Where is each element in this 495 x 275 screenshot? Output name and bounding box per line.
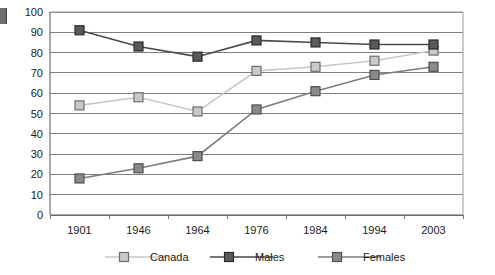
data-point-marker	[252, 36, 261, 45]
legend-marker	[120, 253, 129, 262]
data-point-marker	[193, 152, 202, 161]
data-point-marker	[252, 105, 261, 114]
y-axis-labels: 0102030405060708090100	[25, 6, 43, 221]
legend-marker	[333, 253, 342, 262]
x-tick-label: 1976	[244, 224, 268, 236]
x-tick-label: 1994	[362, 224, 386, 236]
y-tick-label: 70	[31, 67, 43, 79]
data-point-marker	[311, 38, 320, 47]
data-point-marker	[193, 52, 202, 61]
data-point-marker	[75, 174, 84, 183]
legend-label: Females	[363, 251, 406, 263]
y-tick-label: 100	[25, 6, 43, 18]
x-tick-label: 1901	[67, 224, 91, 236]
x-tick-label: 1946	[126, 224, 150, 236]
line-chart: 0102030405060708090100 19011946196419761…	[0, 0, 495, 275]
data-point-marker	[429, 40, 438, 49]
legend-item-females[interactable]: Females	[318, 251, 406, 263]
chart-container: 0102030405060708090100 19011946196419761…	[0, 0, 495, 275]
legend-item-males[interactable]: Males	[210, 251, 285, 263]
data-point-marker	[370, 40, 379, 49]
y-tick-label: 90	[31, 26, 43, 38]
data-point-marker	[75, 101, 84, 110]
legend-item-canada[interactable]: Canada	[105, 251, 189, 263]
data-point-marker	[311, 87, 320, 96]
y-tick-label: 40	[31, 128, 43, 140]
data-point-marker	[429, 62, 438, 71]
legend-label: Canada	[150, 251, 189, 263]
x-tick-label: 1964	[185, 224, 209, 236]
legend-label: Males	[255, 251, 285, 263]
chart-legend: CanadaMalesFemales	[105, 251, 406, 263]
legend-marker	[225, 253, 234, 262]
y-tick-label: 10	[31, 189, 43, 201]
data-point-marker	[193, 107, 202, 116]
y-tick-label: 50	[31, 108, 43, 120]
x-axis-ticks	[50, 215, 463, 219]
y-tick-label: 20	[31, 168, 43, 180]
data-point-marker	[134, 42, 143, 51]
y-tick-label: 60	[31, 87, 43, 99]
x-tick-label: 1984	[303, 224, 327, 236]
data-point-marker	[75, 26, 84, 35]
y-tick-label: 30	[31, 148, 43, 160]
data-point-marker	[311, 62, 320, 71]
data-point-marker	[252, 66, 261, 75]
x-tick-label: 2003	[421, 224, 445, 236]
data-point-marker	[370, 70, 379, 79]
data-point-marker	[134, 164, 143, 173]
y-tick-label: 0	[37, 209, 43, 221]
y-tick-label: 80	[31, 47, 43, 59]
x-axis-labels: 1901194619641976198419942003	[67, 224, 445, 236]
data-point-marker	[370, 56, 379, 65]
data-point-marker	[134, 93, 143, 102]
